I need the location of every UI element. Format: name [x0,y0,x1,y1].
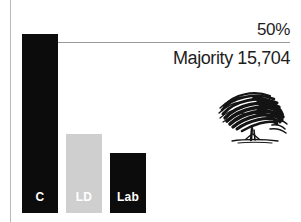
bar-chart: 50% Majority 15,704 C LD Lab [0,0,301,222]
majority-annotation: Majority 15,704 [173,47,290,69]
bar-label-lab: Lab [110,190,146,204]
bar-label-ld: LD [66,190,102,204]
bar-label-c: C [22,190,58,204]
bar-ld: LD [66,134,102,213]
oak-tree-sketch-icon [214,84,290,146]
threshold-label: 50% [257,20,290,40]
threshold-line-50 [58,42,290,43]
bar-c: C [22,34,58,213]
y-axis-line [10,0,11,222]
bar-lab: Lab [110,153,146,213]
